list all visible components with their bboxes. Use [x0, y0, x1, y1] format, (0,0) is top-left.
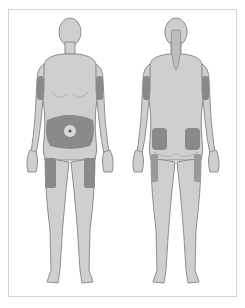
injection-sites-diagram — [0, 0, 245, 308]
back-figure — [133, 18, 219, 283]
front-figure — [27, 18, 113, 283]
injection-site-thigh-right — [45, 158, 56, 188]
injection-site-upper-arm-left — [96, 76, 103, 100]
injection-site-thigh-outer-right — [194, 154, 201, 182]
injection-site-upper-arm-left — [143, 76, 150, 100]
injection-site-upper-arm-right — [37, 76, 44, 100]
injection-site-thigh-outer-left — [151, 154, 158, 182]
injection-site-buttock-left — [152, 128, 167, 150]
injection-site-upper-arm-right — [202, 76, 209, 100]
injection-site-buttock-right — [185, 128, 200, 150]
navel — [68, 129, 71, 132]
injection-site-thigh-left — [84, 158, 95, 188]
